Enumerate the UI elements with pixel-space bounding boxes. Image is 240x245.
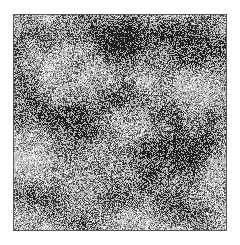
figure-root [0,0,240,245]
texture-image [14,15,226,230]
texture-image-frame [13,14,227,231]
